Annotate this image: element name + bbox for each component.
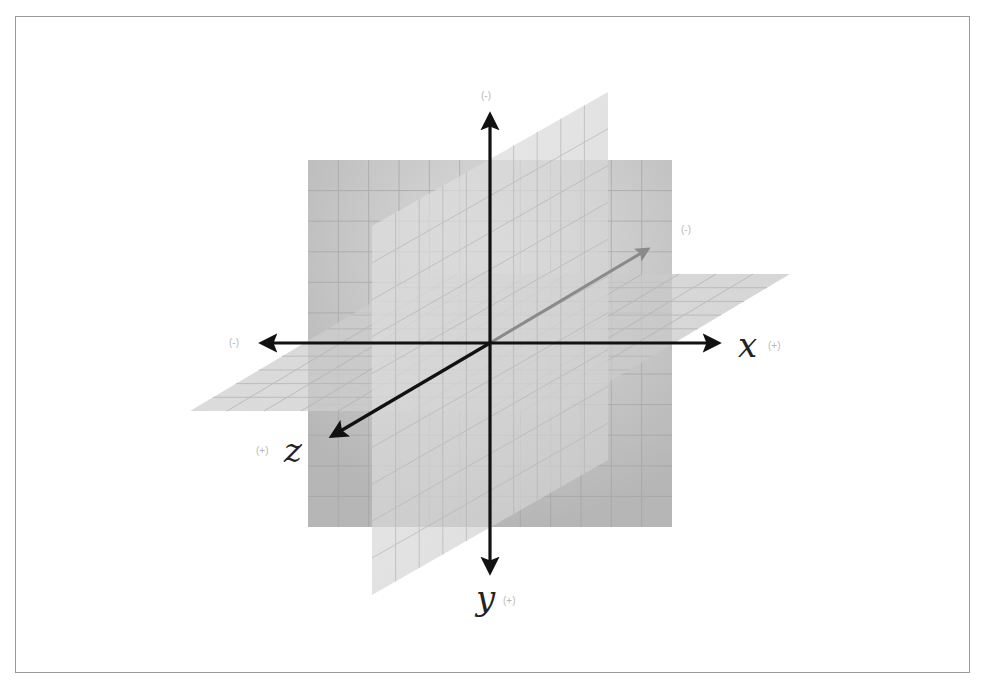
x-positive-sign: (+) xyxy=(768,340,781,351)
y-axis-label: y xyxy=(474,578,496,618)
y-negative-sign: (-) xyxy=(481,90,491,101)
coordinate-diagram: x (+) (-) y (+) (-) z (+) (-) xyxy=(0,0,986,691)
z-negative-sign: (-) xyxy=(681,224,691,235)
x-negative-sign: (-) xyxy=(229,337,239,348)
x-axis-label: x xyxy=(738,325,757,365)
z-positive-sign: (+) xyxy=(256,445,269,456)
y-positive-sign: (+) xyxy=(503,595,516,606)
z-axis-label: z xyxy=(283,430,303,470)
